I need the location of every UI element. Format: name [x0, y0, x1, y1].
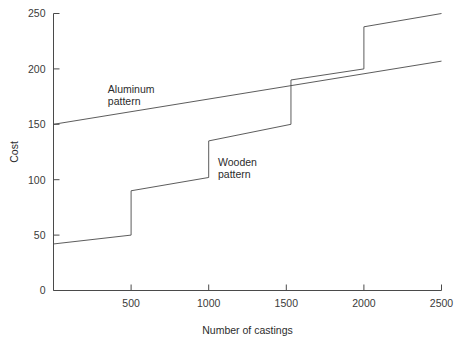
cost-vs-castings-chart: 050100150200250 5001000150020002500 Alum… — [0, 0, 465, 341]
y-tick-label: 200 — [28, 63, 46, 75]
wooden-pattern-label-line1: Wooden — [218, 156, 257, 168]
plot-frame — [54, 14, 442, 291]
y-axis-title: Cost — [8, 141, 20, 163]
y-tick-label: 0 — [40, 284, 46, 296]
chart-page: 050100150200250 5001000150020002500 Alum… — [0, 0, 465, 341]
y-axis-tick-labels: 050100150200250 — [28, 7, 46, 296]
data-series-group — [54, 14, 442, 244]
y-tick-label: 150 — [28, 118, 46, 130]
y-tick-label: 250 — [28, 7, 46, 19]
aluminum-pattern-label-line1: Aluminum — [108, 83, 155, 95]
x-axis-tick-labels: 5001000150020002500 — [122, 297, 453, 309]
x-tick-label: 500 — [122, 297, 140, 309]
aluminum-pattern-label-line2: pattern — [108, 95, 141, 107]
x-tick-label: 2000 — [352, 297, 376, 309]
wooden-pattern-label-line2: pattern — [218, 168, 251, 180]
x-axis-title: Number of castings — [202, 324, 292, 336]
wooden-pattern-line — [54, 14, 442, 244]
y-axis-ticks — [54, 14, 60, 291]
series-annotations: Aluminum pattern Wooden pattern — [108, 83, 257, 180]
x-axis-ticks — [131, 285, 441, 291]
x-tick-label: 1000 — [197, 297, 221, 309]
y-tick-label: 100 — [28, 174, 46, 186]
y-tick-label: 50 — [34, 229, 46, 241]
x-tick-label: 1500 — [275, 297, 299, 309]
x-tick-label: 2500 — [430, 297, 454, 309]
